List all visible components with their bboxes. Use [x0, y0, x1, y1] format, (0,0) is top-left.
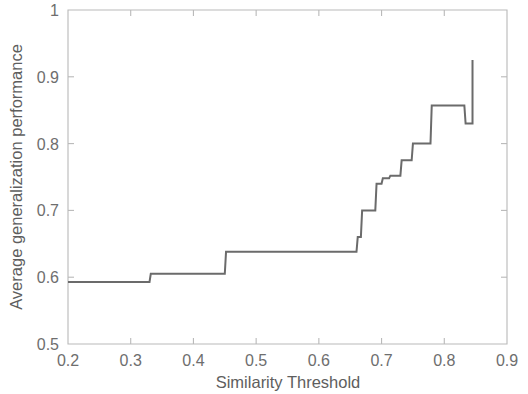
y-tick-label: 0.6 [37, 269, 59, 286]
y-tick-label: 0.9 [37, 69, 59, 86]
y-tick-label: 0.7 [37, 202, 59, 219]
x-tick-label: 0.8 [433, 352, 455, 369]
y-axis-title: Average generalization performance [7, 44, 25, 310]
x-tick-label: 0.4 [182, 352, 204, 369]
x-tick-label: 0.3 [120, 352, 142, 369]
y-tick-label: 0.5 [37, 336, 59, 353]
figure-background [0, 0, 528, 394]
x-tick-label: 0.7 [370, 352, 392, 369]
y-tick-label: 1 [50, 2, 59, 19]
chart-figure: 0.20.30.40.50.60.70.80.9 0.50.60.70.80.9… [0, 0, 528, 394]
x-tick-label: 0.5 [245, 352, 267, 369]
x-axis-title: Similarity Threshold [216, 373, 361, 391]
x-tick-label: 0.6 [308, 352, 330, 369]
y-tick-label: 0.8 [37, 136, 59, 153]
x-tick-label: 0.2 [57, 352, 79, 369]
x-tick-label: 0.9 [496, 352, 518, 369]
